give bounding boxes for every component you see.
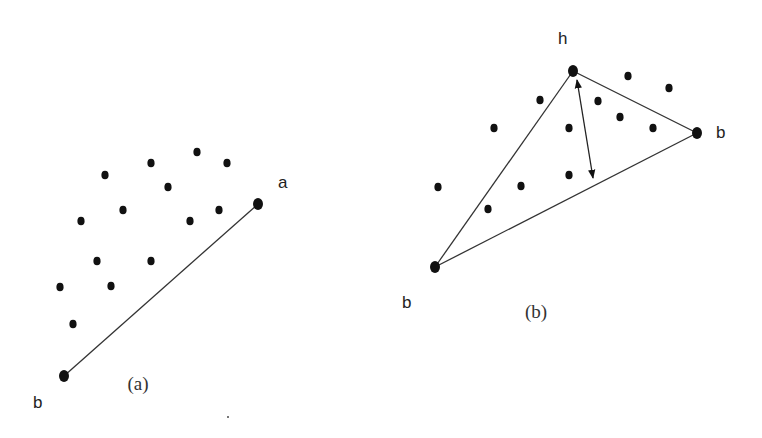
endpoint-a-dot: [253, 198, 263, 210]
point-dot: [434, 183, 441, 192]
point-dot: [215, 206, 222, 215]
point-dot: [517, 182, 524, 191]
point-label-a: a: [278, 173, 288, 192]
point-dot: [107, 282, 114, 291]
point-label-h: h: [558, 29, 567, 48]
point-dot: [490, 124, 497, 133]
point-dot: [186, 217, 193, 226]
point-dot: [77, 217, 84, 226]
panel-b: hbb(b): [402, 29, 725, 323]
point-dot: [649, 124, 656, 133]
stray-mark: [227, 416, 229, 418]
point-dot: [536, 96, 543, 105]
point-dot: [147, 257, 154, 266]
point-dot: [616, 113, 623, 122]
panel-caption: (b): [525, 301, 547, 323]
point-dot: [93, 257, 100, 266]
point-dot: [565, 124, 572, 133]
panel-caption: (a): [127, 373, 148, 395]
point-dot: [223, 159, 230, 168]
point-label-b: b: [716, 123, 725, 142]
point-label-b: b: [402, 293, 411, 312]
endpoint-b-dot: [430, 261, 440, 273]
point-dot: [193, 148, 200, 157]
point-dot: [624, 72, 631, 81]
point-dot: [594, 97, 601, 106]
point-dot: [101, 171, 108, 180]
point-dot: [147, 159, 154, 168]
point-dot: [164, 183, 171, 192]
point-dot: [565, 171, 572, 180]
distance-arrow: [577, 80, 593, 178]
endpoint-b-dot: [59, 370, 69, 382]
endpoint-h-dot: [568, 65, 578, 77]
point-dot: [56, 283, 63, 292]
point-dot: [119, 206, 126, 215]
figure-canvas: ab(a) hbb(b): [0, 0, 762, 438]
edge-line: [64, 204, 258, 376]
edge-line: [573, 71, 697, 133]
edge-line: [435, 133, 697, 267]
panel-a: ab(a): [33, 148, 288, 412]
endpoint-b-dot: [692, 127, 702, 139]
point-dot: [69, 320, 76, 329]
point-dot: [665, 84, 672, 93]
point-label-b: b: [33, 393, 42, 412]
point-dot: [484, 205, 491, 214]
edge-line: [435, 71, 573, 267]
